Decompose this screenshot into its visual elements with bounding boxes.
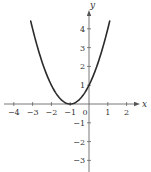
x-tick-label: −1 (64, 108, 76, 117)
y-tick-label: 3 (80, 44, 85, 53)
y-tick-label: 4 (80, 25, 85, 34)
x-tick-label: 0 (82, 108, 87, 117)
y-tick-label: 2 (80, 62, 85, 71)
y-axis-label: y (89, 0, 96, 10)
axes (4, 10, 140, 172)
y-tick-label: −2 (73, 138, 85, 147)
x-tick-label: 2 (124, 108, 129, 117)
parabola-curve (31, 21, 110, 104)
x-tick-label: −2 (46, 108, 58, 117)
x-tick-label: −4 (8, 108, 20, 117)
x-axis-label: x (142, 99, 147, 109)
axis-ticks: −4−3−2−1012−3−2−11234 (8, 25, 129, 166)
parabola-plot: −4−3−2−1012−3−2−11234 x y (0, 0, 151, 172)
curve (31, 21, 110, 104)
y-axis-arrow-icon (87, 10, 91, 16)
x-axis-arrow-icon (134, 102, 140, 106)
x-tick-label: −3 (27, 108, 39, 117)
y-tick-label: −1 (73, 119, 85, 128)
y-tick-label: 1 (80, 81, 85, 90)
y-tick-label: −3 (73, 156, 85, 165)
x-tick-label: 1 (105, 108, 110, 117)
